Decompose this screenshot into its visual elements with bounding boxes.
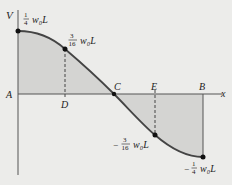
svg-text:−: −: [184, 164, 189, 174]
label-d: D: [60, 99, 69, 110]
point-c: [112, 92, 116, 96]
svg-text:3: 3: [123, 136, 127, 144]
point-e: [153, 133, 158, 138]
label-c: C: [114, 81, 121, 92]
svg-text:−: −: [113, 140, 118, 150]
positive-shear-area: [18, 31, 114, 94]
value-e: − 3 16 w₀L: [113, 136, 149, 152]
value-bottom: − 1 4 w₀L: [184, 160, 216, 176]
svg-text:w₀L: w₀L: [133, 139, 149, 150]
label-a: A: [5, 89, 13, 100]
label-e: E: [150, 81, 157, 92]
svg-text:w₀L: w₀L: [32, 14, 48, 25]
shear-diagram: V x A D C E B 1 4 w₀L 3 16 w₀L − 3 16 w₀…: [0, 0, 232, 185]
value-top: 1 4 w₀L: [24, 11, 49, 27]
svg-text:1: 1: [24, 11, 28, 19]
v-axis-label: V: [6, 9, 14, 21]
point-d: [63, 47, 68, 52]
x-axis-label: x: [220, 88, 226, 99]
label-b: B: [199, 81, 205, 92]
value-d: 3 16 w₀L: [69, 32, 97, 48]
point-bottom: [201, 155, 206, 160]
svg-text:w₀L: w₀L: [200, 163, 216, 174]
svg-text:4: 4: [24, 19, 28, 27]
svg-text:4: 4: [192, 168, 196, 176]
svg-text:1: 1: [192, 160, 196, 168]
svg-text:w₀L: w₀L: [80, 35, 96, 46]
point-top: [16, 29, 21, 34]
svg-text:16: 16: [69, 40, 77, 48]
svg-text:3: 3: [70, 32, 74, 40]
svg-text:16: 16: [122, 144, 130, 152]
